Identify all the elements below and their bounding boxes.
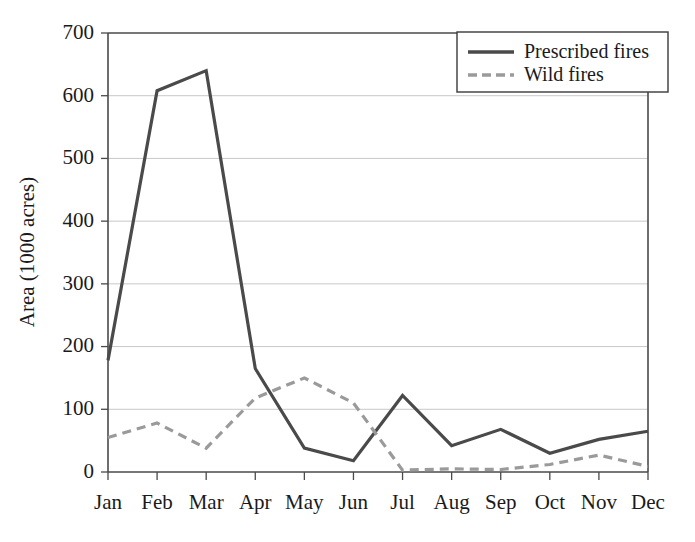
y-tick-label: 100 (63, 396, 95, 420)
chart-svg: 0100200300400500600700 JanFebMarAprMayJu… (0, 0, 695, 542)
x-tick-label: Feb (141, 490, 173, 514)
x-tick-label: Jan (94, 490, 122, 514)
x-tick-label: Jul (390, 490, 415, 514)
x-tick-label: Mar (189, 490, 224, 514)
x-tick-label: Nov (581, 490, 618, 514)
x-tick-label: Jun (339, 490, 369, 514)
x-tick-label: Aug (434, 490, 471, 514)
y-tick-label: 500 (63, 145, 95, 169)
legend: Prescribed fires Wild fires (457, 32, 668, 92)
y-tick-label: 600 (63, 83, 95, 107)
line-chart-figure: 0100200300400500600700 JanFebMarAprMayJu… (0, 0, 695, 542)
x-tick-label: Oct (535, 490, 565, 514)
x-tick-label: May (285, 490, 324, 514)
y-tick-label: 0 (84, 459, 95, 483)
legend-label-wild-fires: Wild fires (524, 63, 604, 85)
y-tick-label: 700 (63, 20, 95, 44)
y-axis-title: Area (1000 acres) (15, 177, 39, 327)
y-tick-label: 400 (63, 208, 95, 232)
y-tick-label: 300 (63, 271, 95, 295)
x-tick-label: Sep (485, 490, 517, 514)
x-tick-label: Apr (239, 490, 272, 514)
y-tick-label: 200 (63, 333, 95, 357)
legend-label-prescribed-fires: Prescribed fires (524, 40, 649, 62)
x-tick-label: Dec (631, 490, 665, 514)
